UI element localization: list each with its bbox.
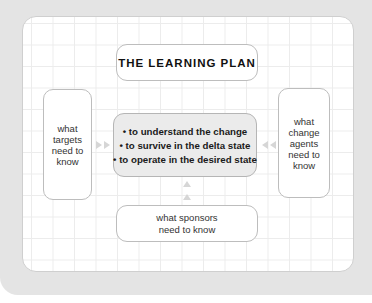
arrow-up-icon: [183, 181, 191, 187]
change-agents-box: what change agents need to know: [278, 88, 330, 198]
arrow-left-icon: [270, 141, 276, 149]
change-agents-line: what: [288, 116, 320, 127]
arrow-right-icon: [104, 141, 110, 149]
learning-goal-item: • to operate in the desired state: [113, 154, 257, 165]
targets-line: what: [52, 123, 84, 134]
change-agents-line: know: [288, 160, 320, 171]
change-agents-line: need to: [288, 149, 320, 160]
arrow-left-icon: [262, 141, 268, 149]
targets-text: what targets need to know: [52, 123, 84, 167]
arrow-right-icon: [96, 141, 102, 149]
targets-line: targets: [52, 134, 84, 145]
change-agents-text: what change agents need to know: [288, 116, 320, 171]
learning-goal-item: • to survive in the delta state: [120, 140, 251, 151]
targets-box: what targets need to know: [43, 89, 92, 200]
title-box: THE LEARNING PLAN: [116, 44, 258, 81]
targets-line: need to: [52, 145, 84, 156]
diagram-title: THE LEARNING PLAN: [118, 57, 256, 69]
sponsors-text: what sponsors need to know: [156, 212, 217, 236]
learning-goals-box: • to understand the change • to survive …: [113, 113, 257, 177]
change-agents-line: agents: [288, 138, 320, 149]
targets-line: know: [52, 156, 84, 167]
learning-goal-item: • to understand the change: [123, 126, 248, 137]
arrow-up-icon: [183, 194, 191, 200]
sponsors-box: what sponsors need to know: [116, 205, 258, 242]
sponsors-line: what sponsors: [156, 212, 217, 224]
change-agents-line: change: [288, 127, 320, 138]
sponsors-line: need to know: [156, 224, 217, 236]
